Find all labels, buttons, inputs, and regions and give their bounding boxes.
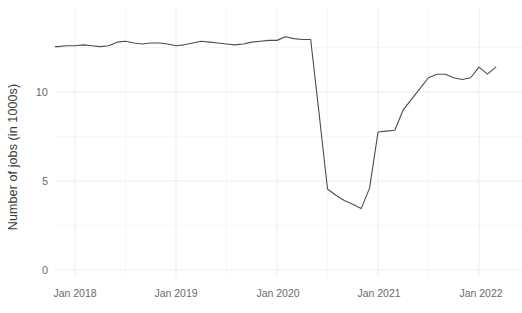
line-chart: Number of jobs (in 1000s) 10 5 0 Jan 201… [0,0,522,313]
x-tick-label-jan-2021: Jan 2021 [357,287,400,299]
y-tick-label-0: 0 [0,264,48,276]
x-tick-label-jan-2019: Jan 2019 [154,287,197,299]
x-tick-label-jan-2022: Jan 2022 [459,287,502,299]
series-line-number-of-jobs [55,37,496,209]
y-axis-title-label: Number of jobs (in 1000s) [6,83,20,229]
x-tick-label-jan-2020: Jan 2020 [256,287,299,299]
y-tick-label-5: 5 [0,175,48,187]
plot-area [55,8,522,276]
plot-svg [55,8,522,276]
gridlines [55,8,522,276]
x-tick-label-jan-2018: Jan 2018 [53,287,96,299]
y-tick-label-10: 10 [0,86,48,98]
